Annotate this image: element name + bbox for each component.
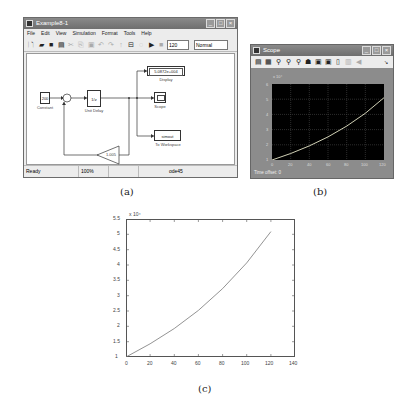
menu-view[interactable]: View — [56, 29, 67, 38]
menu-help[interactable]: Help — [141, 29, 151, 38]
display-block[interactable]: 5.0872e+004 — [147, 66, 185, 76]
scope-plot-svg — [272, 84, 384, 160]
zoom-y-icon[interactable]: ⚲ — [294, 58, 302, 66]
zoom-x-icon[interactable]: ⚲ — [284, 58, 292, 66]
plot-c-y-exponent: x 10⁴ — [129, 211, 141, 217]
autoscale-icon[interactable]: ☗ — [304, 58, 312, 66]
to-workspace-block[interactable]: simout — [154, 130, 181, 141]
status-solver: ode45 — [139, 166, 237, 177]
caption-b: (b) — [313, 186, 327, 197]
scope-minimize-button[interactable]: _ — [362, 46, 371, 55]
close-button[interactable]: × — [226, 19, 235, 28]
start-simulation-icon[interactable]: ▶ — [147, 41, 155, 49]
scope-maximize-button[interactable]: □ — [372, 46, 381, 55]
scope-window: Scope _ □ × ▤ ▦ ⚲ ⚲ ⚲ ☗ ▣ ▣ ▯ ▥ ◀ ↘ x 10… — [250, 44, 394, 179]
paste-icon[interactable]: ▣ — [87, 41, 95, 49]
cut-icon[interactable]: ✂ — [67, 41, 75, 49]
plot-c-x-tick: 80 — [219, 360, 225, 366]
dock-arrow-icon[interactable]: ↘ — [382, 58, 390, 66]
unit-delay-block[interactable]: 1/z — [87, 90, 101, 107]
plot-c-axes — [126, 219, 295, 357]
simulink-model-window: Example8-1 _ □ × File Edit View Simulati… — [23, 17, 238, 178]
unit-delay-value: 1/z — [91, 97, 96, 102]
plot-c-y-tick: 1 — [115, 353, 118, 359]
open-folder-icon[interactable]: ▰ — [37, 41, 45, 49]
scope-y-tick: 3 — [266, 127, 268, 132]
signal-lines — [27, 54, 236, 166]
lock-axes-icon[interactable]: ▥ — [344, 58, 352, 66]
plot-c-y-tick: 3.5 — [113, 276, 120, 282]
plot-c-y-tick: 3 — [117, 292, 120, 298]
scope-app-icon — [253, 47, 260, 54]
to-workspace-label: To Workspace — [151, 142, 185, 147]
new-file-icon[interactable]: 🗋 — [27, 41, 35, 49]
display-value: 5.0872e+004 — [149, 68, 183, 76]
parameters-icon[interactable]: ▦ — [264, 58, 272, 66]
scope-label: Scope — [148, 104, 172, 109]
undo-icon[interactable]: ↶ — [97, 41, 105, 49]
scope-plot-area — [272, 84, 384, 160]
maximize-button[interactable]: □ — [216, 19, 225, 28]
scope-y-tick: 5 — [266, 97, 268, 102]
toolbar: 🗋 ▰ ■ ▤ ✂ ⎘ ▣ ↶ ↷ ↑ ⊟ ◌ ▶ ■ 120 Normal — [24, 38, 237, 52]
scope-titlebar: Scope _ □ × — [251, 45, 393, 56]
stop-simulation-icon[interactable]: ■ — [157, 41, 165, 49]
menu-simulation[interactable]: Simulation — [72, 29, 95, 38]
save-axes-icon[interactable]: ▣ — [314, 58, 322, 66]
scope-y-tick: 2 — [266, 142, 268, 147]
scope-x-tick: 60 — [326, 162, 330, 167]
signal-selection-icon[interactable]: ◀ — [354, 58, 362, 66]
scope-y-tick: 1 — [266, 157, 268, 162]
plot-c-x-tick: 100 — [241, 360, 249, 366]
scope-toolbar: ▤ ▦ ⚲ ⚲ ⚲ ☗ ▣ ▣ ▯ ▥ ◀ ↘ — [251, 56, 393, 68]
library-icon[interactable]: ⊟ — [127, 41, 135, 49]
scope-x-tick: 0 — [271, 162, 273, 167]
scope-block-screen — [157, 95, 165, 101]
scope-block[interactable] — [154, 92, 166, 103]
constant-block[interactable]: 200 — [40, 92, 50, 104]
scope-x-tick: 120 — [379, 162, 386, 167]
explorer-icon[interactable]: ◌ — [137, 41, 145, 49]
scope-close-button[interactable]: × — [382, 46, 391, 55]
plot-c-y-tick: 2 — [117, 322, 120, 328]
restore-axes-icon[interactable]: ▣ — [324, 58, 332, 66]
plot-c-x-tick: 20 — [147, 360, 153, 366]
scope-x-tick: 100 — [361, 162, 368, 167]
minimize-button[interactable]: _ — [206, 19, 215, 28]
status-empty — [109, 166, 139, 177]
caption-a: (a) — [120, 186, 134, 197]
zoom-icon[interactable]: ⚲ — [274, 58, 282, 66]
plot-c-y-tick: 1.5 — [113, 338, 120, 344]
up-icon[interactable]: ↑ — [117, 41, 125, 49]
constant-value: 200 — [42, 96, 49, 101]
window-titlebar: Example8-1 _ □ × — [24, 18, 237, 29]
plot-c-y-tick: 5.5 — [113, 215, 120, 221]
status-ready: Ready — [24, 166, 79, 177]
redo-icon[interactable]: ↷ — [107, 41, 115, 49]
menu-tools[interactable]: Tools — [124, 29, 136, 38]
menu-edit[interactable]: Edit — [41, 29, 50, 38]
gain-value: 1.005 — [103, 152, 119, 157]
status-bar: Ready 100% ode45 — [24, 165, 237, 177]
simulation-mode-select[interactable]: Normal — [194, 40, 228, 50]
menu-bar: File Edit View Simulation Format Tools H… — [24, 29, 237, 38]
plot-c-y-tick: 4 — [117, 261, 120, 267]
plot-c-x-tick: 60 — [195, 360, 201, 366]
to-workspace-value: simout — [162, 134, 174, 139]
save-icon[interactable]: ■ — [47, 41, 55, 49]
plot-c-x-tick: 140 — [289, 360, 297, 366]
status-zoom: 100% — [79, 166, 109, 177]
stop-time-input[interactable]: 120 — [167, 40, 189, 50]
plot-c-x-tick: 0 — [125, 360, 128, 366]
menu-file[interactable]: File — [27, 29, 35, 38]
print-icon[interactable]: ▤ — [254, 58, 262, 66]
model-canvas[interactable]: 200 Constant 1/z Unit Delay 1.005 Gain 5… — [26, 53, 235, 165]
scope-x-tick: 80 — [344, 162, 348, 167]
caption-c: (c) — [198, 383, 211, 394]
scope-time-offset: Time offset: 0 — [254, 170, 281, 175]
window-title: Example8-1 — [36, 20, 68, 26]
copy-icon[interactable]: ⎘ — [77, 41, 85, 49]
floating-scope-icon[interactable]: ▯ — [334, 58, 342, 66]
print-icon[interactable]: ▤ — [57, 41, 65, 49]
menu-format[interactable]: Format — [102, 29, 118, 38]
